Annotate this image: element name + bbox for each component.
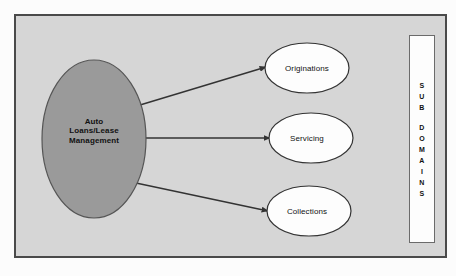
sub-domains-legend: S U B D O M A I N S xyxy=(409,35,435,243)
legend-letter: M xyxy=(419,144,425,155)
legend-letter: O xyxy=(419,133,425,144)
legend-letter: U xyxy=(419,91,424,102)
diagram-canvas xyxy=(0,0,456,276)
legend-letter: A xyxy=(419,155,424,166)
legend-letter: S xyxy=(420,188,425,199)
legend-letter: N xyxy=(419,177,424,188)
main-node-shape[interactable] xyxy=(42,60,146,218)
legend-letter: S xyxy=(420,80,425,91)
sub-node-shape-originations[interactable] xyxy=(265,43,349,93)
legend-letter: B xyxy=(419,102,424,113)
sub-node-shape-collections[interactable] xyxy=(267,186,351,236)
legend-letter: I xyxy=(421,166,423,177)
connector-collections xyxy=(136,183,268,211)
legend-line-domains: D O M A I N S xyxy=(419,122,425,199)
legend-line-sub: S U B xyxy=(419,80,424,113)
legend-letter: D xyxy=(419,122,424,133)
diagram-root: Auto Loans/Lease Management Originations… xyxy=(0,0,456,276)
sub-node-shape-servicing[interactable] xyxy=(269,113,353,163)
connector-originations xyxy=(140,67,266,105)
